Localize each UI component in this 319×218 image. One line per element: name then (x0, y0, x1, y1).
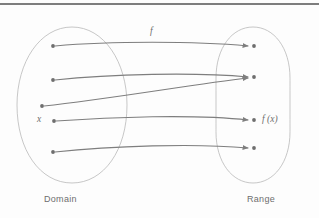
figure-canvas: f x f (x) Domain Range (0, 0, 319, 218)
domain-point-x (52, 119, 56, 123)
domain-element-label-x: x (37, 114, 41, 124)
domain-caption: Domain (44, 194, 77, 204)
range-oval (216, 27, 290, 183)
mapping-arrow-4 (56, 117, 248, 121)
mapping-arrow-2 (55, 74, 248, 80)
mapping-arrow-1 (55, 42, 248, 46)
domain-points (40, 44, 56, 154)
mapping-arrow-3 (44, 78, 248, 106)
range-point-fx (252, 118, 256, 122)
mapping-arrow-5 (55, 145, 248, 152)
mapping-diagram (0, 0, 319, 218)
domain-point-3 (40, 104, 44, 108)
range-element-label-fx: f (x) (262, 114, 278, 124)
domain-point-1 (51, 44, 55, 48)
range-point-4 (252, 146, 256, 150)
range-point-2 (252, 75, 256, 79)
function-label-f: f (150, 26, 153, 36)
range-point-1 (252, 44, 256, 48)
range-caption: Range (247, 194, 275, 204)
range-points (252, 44, 256, 150)
domain-point-2 (51, 78, 55, 82)
domain-oval (17, 27, 127, 183)
domain-point-5 (51, 150, 55, 154)
mapping-arrows (44, 42, 248, 152)
